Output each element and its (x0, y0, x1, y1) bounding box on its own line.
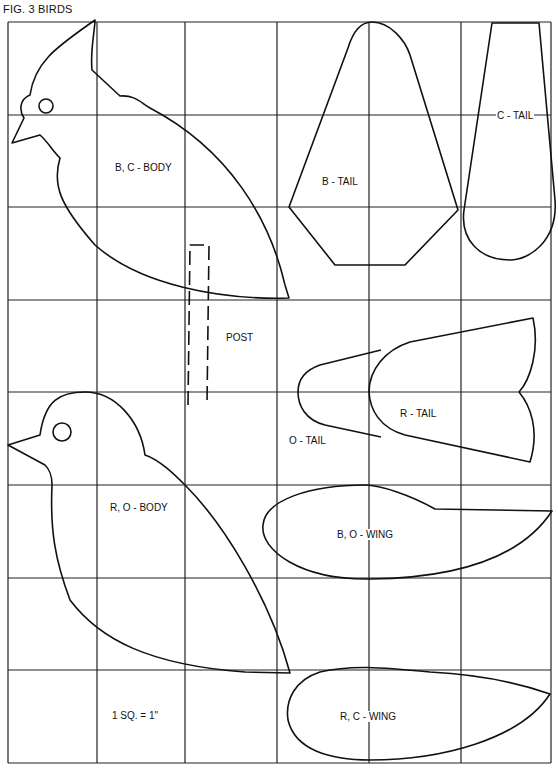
scale-note: 1 SQ. = 1" (111, 710, 159, 721)
label-b-tail: B - TAIL (321, 176, 359, 187)
label-post: POST (225, 332, 254, 343)
label-bc-body: B, C - BODY (114, 162, 173, 173)
b-tail-outline (289, 22, 458, 265)
r-tail-outline (369, 318, 535, 462)
pattern-diagram (0, 0, 558, 773)
label-ro-body: R, O - BODY (109, 502, 169, 513)
c-tail-outline (463, 23, 555, 260)
label-r-tail: R - TAIL (399, 408, 437, 419)
rc-wing-outline (287, 667, 550, 760)
label-rc-wing: R, C - WING (339, 711, 397, 722)
bc-body-eye (39, 99, 53, 113)
ro-body-eye (53, 423, 71, 441)
bo-wing-outline (263, 485, 552, 579)
label-c-tail: C - TAIL (496, 110, 534, 121)
label-o-tail: O - TAIL (288, 435, 327, 446)
label-bo-wing: B, O - WING (336, 529, 394, 540)
ro-body-outline (8, 392, 290, 673)
post-outline (188, 245, 209, 405)
bc-body-outline (12, 20, 289, 298)
